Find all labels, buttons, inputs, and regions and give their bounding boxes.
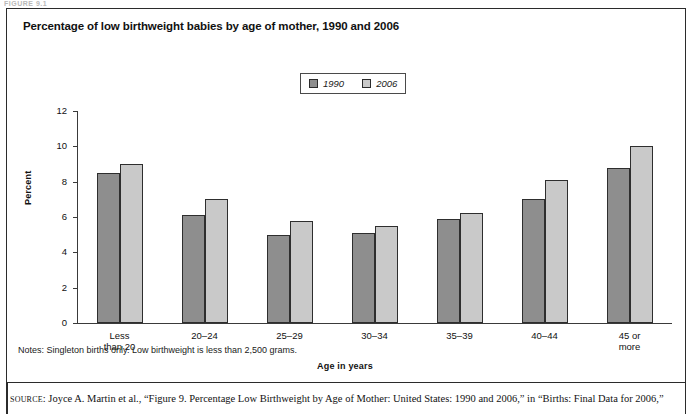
y-axis-title: Percent	[23, 171, 33, 205]
y-axis-tick-label: 10	[47, 141, 67, 150]
bar-2006-group-2	[290, 221, 313, 323]
y-axis-tick-mark	[73, 288, 77, 289]
y-axis-tick-label: 4	[47, 247, 67, 256]
bar-2006-group-1	[205, 199, 228, 323]
y-axis-tick-mark	[73, 217, 77, 218]
figure-source: SOURCE: Joyce A. Martin et al., “Figure …	[10, 393, 664, 404]
y-axis-tick-mark	[73, 146, 77, 147]
bar-2006-group-4	[460, 213, 483, 323]
x-axis-tick-label: 45 or more	[587, 330, 672, 352]
bar-1990-group-3	[352, 233, 375, 323]
y-axis-tick-mark	[73, 252, 77, 253]
bar-2006-group-6	[630, 146, 653, 323]
y-axis-tick-mark	[73, 182, 77, 183]
x-axis-tick-label: 20–24	[162, 330, 247, 341]
source-body: : Joyce A. Martin et al., “Figure 9. Per…	[43, 393, 664, 404]
bar-2006-group-0	[120, 164, 143, 323]
x-axis-tick-label: 35–39	[417, 330, 502, 341]
bar-2006-group-5	[545, 180, 568, 323]
x-axis-tick-label: 25–29	[247, 330, 332, 341]
cropped-header-sliver: FIGURE 9.1	[4, 0, 124, 8]
x-axis-line	[77, 323, 672, 324]
y-axis-tick-label: 0	[47, 318, 67, 327]
y-axis-tick-label: 8	[47, 177, 67, 186]
bar-1990-group-2	[267, 235, 290, 323]
y-axis-tick-label: 6	[47, 212, 67, 221]
bar-1990-group-4	[437, 219, 460, 323]
bar-1990-group-1	[182, 215, 205, 323]
x-axis-title: Age in years	[317, 361, 373, 371]
y-axis-tick-mark	[73, 111, 77, 112]
bar-1990-group-5	[522, 199, 545, 323]
bar-1990-group-6	[607, 168, 630, 323]
right-border-rule	[685, 383, 687, 414]
y-axis-tick-label: 12	[47, 106, 67, 115]
x-axis-tick-label: 40–44	[502, 330, 587, 341]
figure-notes: Notes: Singleton births only. Low birthw…	[18, 345, 297, 355]
figure-page: FIGURE 9.1 Percentage of low birthweight…	[0, 0, 692, 414]
y-axis-line	[77, 111, 78, 324]
bar-2006-group-3	[375, 226, 398, 323]
y-axis-tick-label: 2	[47, 283, 67, 292]
left-border-rule	[6, 383, 8, 414]
y-axis-tick-mark	[73, 323, 77, 324]
bar-1990-group-0	[97, 173, 120, 323]
source-prefix: SOURCE	[10, 395, 43, 404]
chart-plot-area: Percent 024681012Less than 2020–2425–293…	[7, 9, 687, 384]
figure-box: Percentage of low birthweight babies by …	[6, 8, 686, 383]
x-axis-tick-label: 30–34	[332, 330, 417, 341]
